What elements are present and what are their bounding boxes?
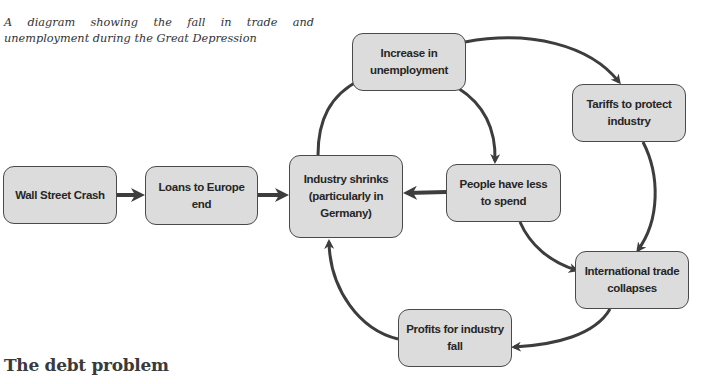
arrow-people-to-international	[520, 222, 576, 270]
arrow-international-to-profits	[514, 309, 610, 347]
arrow-industry-to-unemployment	[318, 80, 360, 155]
arrow-profits-to-industry	[329, 242, 398, 339]
node-people-have-less-to-spend: People have less to spend	[446, 164, 561, 222]
node-tariffs-to-protect-industry: Tariffs to protect industry	[572, 84, 686, 142]
arrow-tariffs-to-international	[638, 142, 655, 250]
node-wall-street-crash: Wall Street Crash	[3, 166, 117, 224]
arrow-unemployment-to-people	[458, 88, 495, 161]
arrow-people-to-industry	[407, 192, 446, 193]
arrow-unemployment-to-tariffs	[465, 38, 619, 82]
node-industry-shrinks: Industry shrinks (particularly in German…	[289, 155, 403, 238]
node-international-trade-collapses: International trade collapses	[575, 251, 689, 309]
node-loans-to-europe-end: Loans to Europe end	[145, 166, 258, 225]
node-profits-for-industry-fall: Profits for industry fall	[398, 309, 512, 367]
section-heading: The debt problem	[4, 355, 169, 375]
node-increase-in-unemployment: Increase in unemployment	[352, 33, 466, 91]
